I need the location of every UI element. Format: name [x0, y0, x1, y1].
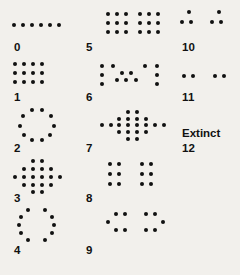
dot [26, 208, 31, 213]
dot [111, 64, 116, 69]
dot [138, 30, 143, 35]
dot [126, 110, 131, 115]
dot [100, 73, 105, 78]
dot [106, 30, 111, 35]
dot [147, 12, 152, 17]
dot [22, 175, 27, 180]
dot [49, 175, 54, 180]
dot [140, 172, 145, 177]
glyph-cell-4 [12, 208, 72, 246]
dot [21, 114, 26, 119]
dot [217, 10, 222, 15]
dot [40, 108, 45, 113]
dot [13, 71, 18, 76]
glyph-cell-7 [100, 110, 172, 144]
dot [161, 220, 166, 225]
dot [123, 228, 128, 233]
glyph-cell-9 [106, 212, 166, 244]
dot [182, 74, 187, 79]
dot-glyph-5 [104, 8, 164, 42]
dot [40, 159, 45, 164]
glyph-label-9: 9 [86, 245, 93, 257]
dot [52, 223, 57, 228]
dot [30, 23, 35, 28]
dot [31, 167, 36, 172]
dot [40, 80, 45, 85]
dot [135, 130, 140, 135]
dot [153, 228, 158, 233]
dot [120, 71, 125, 76]
dot-glyph-8 [106, 160, 166, 194]
dot [22, 71, 27, 76]
dot [49, 167, 54, 172]
glyph-label-10: 10 [182, 42, 195, 54]
dot [108, 172, 113, 177]
dot [13, 175, 18, 180]
dot [123, 212, 128, 217]
dot [124, 78, 129, 83]
glyph-cell-8 [106, 160, 166, 194]
dot-pattern-figure: 01234567891011Extinct12 [0, 0, 240, 275]
dot [50, 231, 55, 236]
glyph-label-2: 2 [14, 143, 21, 155]
dot [22, 133, 27, 138]
glyph-label-0: 0 [14, 42, 21, 54]
dot-glyph-9 [106, 212, 166, 244]
dot [22, 167, 27, 172]
dot [31, 62, 36, 67]
dot [156, 12, 161, 17]
dot [43, 238, 48, 243]
dot [109, 123, 114, 128]
dot [26, 238, 31, 243]
dot [124, 30, 129, 35]
glyph-cell-1 [12, 58, 72, 92]
dot-glyph-7 [100, 110, 172, 144]
dot [19, 231, 24, 236]
dot [144, 117, 149, 122]
dot [115, 30, 120, 35]
dot [30, 108, 35, 113]
dot [31, 80, 36, 85]
dot [135, 117, 140, 122]
dot [135, 110, 140, 115]
glyph-cell-6 [100, 60, 166, 94]
dot [50, 215, 55, 220]
dot [180, 20, 185, 25]
dot [138, 21, 143, 26]
dot-glyph-11 [182, 68, 236, 92]
dot [126, 137, 131, 142]
dot [155, 64, 160, 69]
dot [156, 21, 161, 26]
dot [31, 175, 36, 180]
glyph-text-12: Extinct [182, 128, 220, 140]
dot [126, 123, 131, 128]
dot [19, 215, 24, 220]
dot [52, 124, 57, 129]
dot [126, 117, 131, 122]
dot [149, 182, 154, 187]
dot [135, 137, 140, 142]
dot [40, 175, 45, 180]
dot [40, 62, 45, 67]
dot [124, 12, 129, 17]
dot-glyph-3 [12, 158, 72, 194]
dot [40, 167, 45, 172]
dot [43, 208, 48, 213]
dot [108, 182, 113, 187]
glyph-label-1: 1 [14, 92, 21, 104]
dot [40, 183, 45, 188]
dot-glyph-10 [182, 10, 236, 40]
dot [114, 212, 119, 217]
dot-glyph-6 [100, 60, 166, 94]
dot-glyph-1 [12, 58, 72, 92]
dot [114, 228, 119, 233]
glyph-cell-3 [12, 158, 72, 194]
dot [31, 183, 36, 188]
dot [156, 30, 161, 35]
dot [117, 117, 122, 122]
glyph-cell-11 [182, 68, 236, 92]
glyph-label-5: 5 [86, 42, 93, 54]
dot [187, 10, 192, 15]
glyph-label-8: 8 [86, 193, 93, 205]
dot [18, 124, 23, 129]
